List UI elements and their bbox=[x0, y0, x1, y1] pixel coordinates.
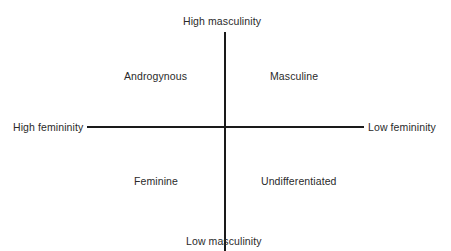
axis-label-low-masculinity: Low masculinity bbox=[186, 235, 262, 247]
quadrant-label-undifferentiated: Undifferentiated bbox=[261, 175, 337, 187]
femininity-axis-line bbox=[87, 126, 364, 128]
masculinity-axis-line bbox=[224, 32, 226, 251]
quadrant-label-feminine: Feminine bbox=[134, 175, 178, 187]
gender-role-quadrant-diagram: High masculinity Low masculinity High fe… bbox=[0, 0, 451, 251]
axis-label-high-femininity: High femininity bbox=[13, 121, 83, 133]
axis-label-low-femininity: Low femininity bbox=[368, 121, 436, 133]
quadrant-label-masculine: Masculine bbox=[270, 70, 318, 82]
axis-label-high-masculinity: High masculinity bbox=[183, 15, 261, 27]
quadrant-label-androgynous: Androgynous bbox=[124, 70, 187, 82]
